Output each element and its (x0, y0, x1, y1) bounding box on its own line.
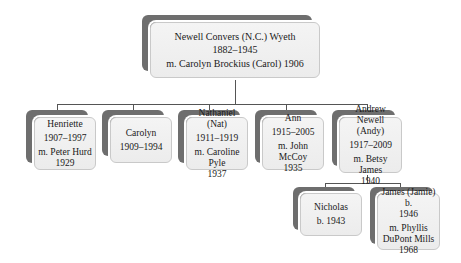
node-card: Carolyn 1909–1994 (110, 117, 172, 163)
person-marriage-year: 1940 (361, 176, 380, 187)
person-dates: b. 1943 (317, 216, 346, 227)
person-marriage-spouse: DuPont Mills (383, 234, 434, 245)
node-card: Henriette 1907–1997 m. Peter Hurd 1929 (34, 117, 96, 170)
node-card: Andrew Newell (Andy) 1917–2009 m. Betsy … (339, 117, 402, 173)
person-name: Carolyn (126, 128, 157, 139)
person-marriage-year: 1937 (208, 169, 227, 180)
node-card: Ann 1915–2005 m. John McCoy 1935 (262, 117, 324, 170)
person-name: Nathaniel (Nat) (190, 108, 244, 130)
person-marriage-year: 1968 (399, 245, 418, 256)
person-name: Henriette (47, 119, 82, 130)
person-birth-year: 1946 (399, 209, 418, 220)
node-card: Newell Convers (N.C.) Wyeth 1882–1945 m.… (150, 22, 320, 78)
connector-children-bar (57, 104, 368, 105)
person-marriage: m. Carolyn Brockius (Carol) 1906 (166, 57, 303, 71)
person-name: James (Jamie) b. (381, 187, 436, 209)
person-name: Ann (285, 113, 301, 124)
connector-root-down (235, 78, 236, 104)
person-marriage: m. Betsy James (343, 154, 398, 176)
person-dates: 1882–1945 (213, 43, 258, 57)
person-marriage: m. John McCoy (266, 141, 320, 163)
person-name: Newell Convers (N.C.) Wyeth (174, 30, 295, 44)
person-dates: 1915–2005 (272, 127, 315, 138)
person-marriage: m. Peter Hurd (38, 147, 92, 158)
person-marriage: m. Caroline Pyle (190, 147, 244, 169)
node-card: Nathaniel (Nat) 1911–1919 m. Caroline Py… (186, 117, 248, 170)
node-card: Nicholas b. 1943 (300, 193, 362, 236)
person-name: Andrew Newell (343, 104, 398, 126)
person-nickname: (Andy) (357, 126, 384, 137)
node-card: James (Jamie) b. 1946 m. Phyllis DuPont … (377, 193, 440, 250)
person-marriage: m. Phyllis (389, 223, 428, 234)
person-dates: 1917–2009 (349, 140, 392, 151)
person-dates: 1909–1994 (120, 142, 163, 153)
person-marriage-year: 1935 (284, 163, 303, 174)
person-dates: 1907–1997 (44, 133, 87, 144)
person-dates: 1911–1919 (196, 133, 238, 144)
person-marriage-year: 1929 (56, 158, 75, 169)
person-name: Nicholas (314, 202, 348, 213)
